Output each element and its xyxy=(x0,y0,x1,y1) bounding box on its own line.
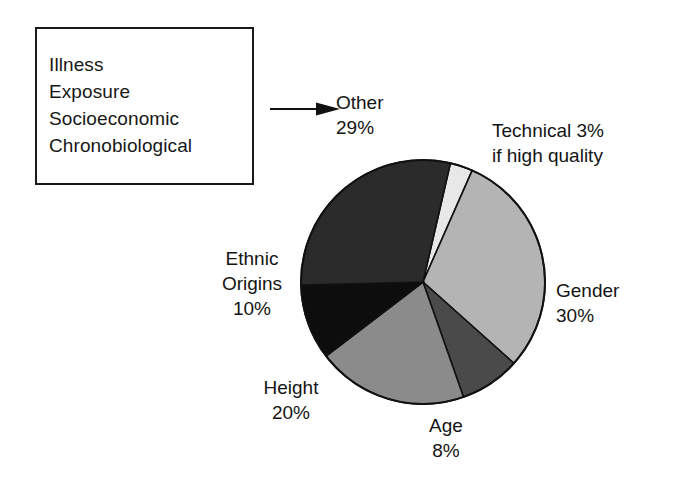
pie-label-gender: Gender 30% xyxy=(556,278,660,328)
pie-label-other-name: Other xyxy=(336,90,428,115)
pie-label-height-value: 20% xyxy=(236,400,346,425)
arrow-right-icon xyxy=(270,100,342,118)
pie-label-other-value: 29% xyxy=(336,115,428,140)
other-component-illness: Illness xyxy=(49,51,248,78)
other-component-socioeconomic: Socioeconomic xyxy=(49,105,248,132)
pie-label-height: Height 20% xyxy=(236,375,346,425)
pie-label-height-name: Height xyxy=(236,375,346,400)
pie-label-gender-name: Gender xyxy=(556,278,660,303)
other-components-box: Illness Exposure Socioeconomic Chronobio… xyxy=(35,27,254,185)
pie-label-age-value: 8% xyxy=(404,438,488,463)
pie-label-age-name: Age xyxy=(404,413,488,438)
pie-label-technical-name: Technical 3% xyxy=(492,118,672,143)
other-component-exposure: Exposure xyxy=(49,78,248,105)
pie-label-technical: Technical 3% if high quality xyxy=(492,118,672,168)
pie-chart-figure: Illness Exposure Socioeconomic Chronobio… xyxy=(0,0,682,491)
pie-label-other: Other 29% xyxy=(336,90,428,140)
pie-label-ethnic-name2: Origins xyxy=(196,271,308,296)
pie-label-ethnic-origins: Ethnic Origins 10% xyxy=(196,246,308,321)
pie-label-age: Age 8% xyxy=(404,413,488,463)
pie-label-ethnic-name1: Ethnic xyxy=(196,246,308,271)
pie-chart xyxy=(300,159,546,405)
pie-slice-group xyxy=(301,160,545,404)
pie-label-ethnic-value: 10% xyxy=(196,296,308,321)
other-component-chronobiological: Chronobiological xyxy=(49,132,248,159)
pie-label-technical-note: if high quality xyxy=(492,143,672,168)
other-components-list: Illness Exposure Socioeconomic Chronobio… xyxy=(49,51,248,159)
pie-label-gender-value: 30% xyxy=(556,303,660,328)
